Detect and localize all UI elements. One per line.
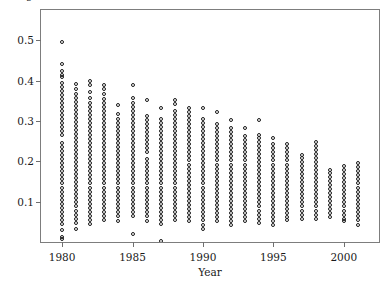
x-axis-title: Year xyxy=(40,266,380,278)
x-axis-tick xyxy=(273,242,274,247)
data-point xyxy=(88,181,92,185)
data-point xyxy=(257,118,261,122)
data-point xyxy=(116,214,120,218)
data-point xyxy=(60,222,64,226)
data-point xyxy=(257,217,261,221)
data-point xyxy=(74,100,78,104)
data-point xyxy=(243,219,247,223)
data-point xyxy=(131,181,135,185)
data-point xyxy=(356,223,360,227)
data-point xyxy=(116,194,120,198)
data-point xyxy=(173,194,177,198)
y-axis-tick xyxy=(36,81,41,82)
y-axis-tick-label: 0.4 xyxy=(17,75,34,87)
data-point xyxy=(88,186,92,190)
data-point xyxy=(201,181,205,185)
data-point xyxy=(173,181,177,185)
data-point xyxy=(314,213,318,217)
y-axis-tick xyxy=(36,161,41,162)
data-point xyxy=(159,194,163,198)
clipped-axis-label: p xyxy=(26,0,32,1)
data-point xyxy=(215,110,219,114)
y-axis-tick xyxy=(36,121,41,122)
data-point xyxy=(356,190,360,194)
y-axis-tick xyxy=(36,202,41,203)
data-point xyxy=(201,106,205,110)
x-axis-tick-label: 1980 xyxy=(49,251,76,263)
data-point xyxy=(102,218,106,222)
data-point xyxy=(243,167,247,171)
data-point xyxy=(60,237,64,241)
data-point xyxy=(131,96,135,100)
data-point xyxy=(257,213,261,217)
plot-area: 0.10.20.30.40.519801985199019952000 xyxy=(40,9,380,243)
data-point xyxy=(116,112,120,116)
data-point xyxy=(342,219,346,223)
data-point xyxy=(257,221,261,225)
data-point xyxy=(60,228,64,232)
data-point xyxy=(74,213,78,217)
data-point xyxy=(229,167,233,171)
data-point xyxy=(356,186,360,190)
data-point xyxy=(300,217,304,221)
x-axis-tick xyxy=(62,242,63,247)
data-point xyxy=(102,190,106,194)
data-point xyxy=(102,194,106,198)
data-point xyxy=(215,219,219,223)
data-point xyxy=(116,103,120,107)
data-point xyxy=(60,190,64,194)
data-point xyxy=(116,186,120,190)
data-point xyxy=(285,158,289,162)
data-point xyxy=(145,219,149,223)
data-point xyxy=(74,221,78,225)
data-point xyxy=(116,219,120,223)
data-point xyxy=(74,227,78,231)
data-point xyxy=(131,214,135,218)
data-point xyxy=(145,186,149,190)
data-point xyxy=(159,239,163,242)
data-point xyxy=(131,194,135,198)
y-axis-tick-label: 0.1 xyxy=(17,196,34,208)
data-point xyxy=(300,213,304,217)
data-point xyxy=(74,87,78,91)
data-point xyxy=(356,194,360,198)
data-point xyxy=(159,222,163,226)
data-point xyxy=(285,163,289,167)
data-point xyxy=(60,181,64,185)
data-point xyxy=(74,209,78,213)
data-point xyxy=(131,83,135,87)
data-point xyxy=(229,158,233,162)
data-point xyxy=(74,104,78,108)
data-point xyxy=(215,158,219,162)
data-point xyxy=(116,181,120,185)
data-point xyxy=(215,171,219,175)
data-point xyxy=(159,190,163,194)
x-axis-tick-label: 2000 xyxy=(330,251,357,263)
data-point xyxy=(88,194,92,198)
data-point xyxy=(243,126,247,130)
data-point xyxy=(229,223,233,227)
data-point xyxy=(145,194,149,198)
data-point xyxy=(102,87,106,91)
data-point xyxy=(88,190,92,194)
data-point xyxy=(271,171,275,175)
data-point xyxy=(328,171,332,175)
data-point xyxy=(74,96,78,100)
data-point xyxy=(131,186,135,190)
data-point xyxy=(356,181,360,185)
data-point xyxy=(285,218,289,222)
data-point xyxy=(187,171,191,175)
data-points-layer xyxy=(41,10,379,242)
data-point xyxy=(187,158,191,162)
data-point xyxy=(159,181,163,185)
data-point xyxy=(145,190,149,194)
y-axis-tick-label: 0.2 xyxy=(17,155,34,167)
data-point xyxy=(271,158,275,162)
data-point xyxy=(60,186,64,190)
data-point xyxy=(116,190,120,194)
data-point xyxy=(229,118,233,122)
data-point xyxy=(356,218,360,222)
data-point xyxy=(102,186,106,190)
data-point xyxy=(243,163,247,167)
data-point xyxy=(74,92,78,96)
